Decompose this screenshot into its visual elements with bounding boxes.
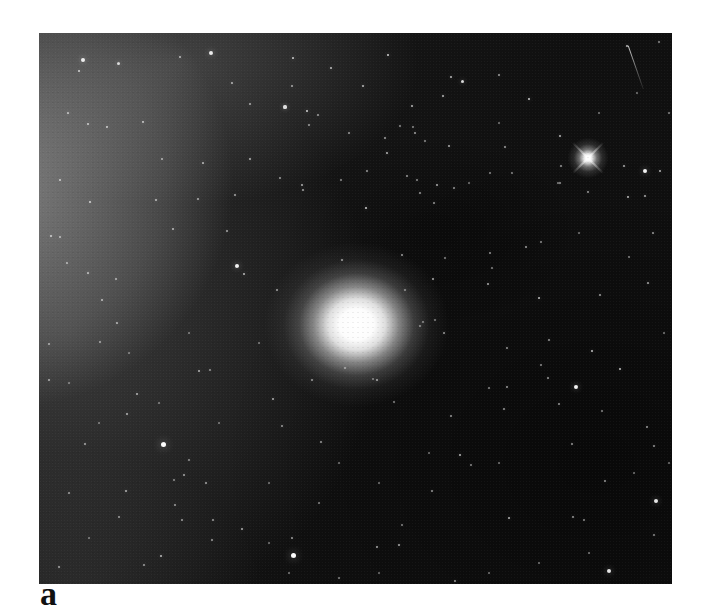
star [399,125,401,127]
star [183,474,185,476]
star [470,464,472,466]
star [668,462,670,464]
star [450,415,452,417]
star [607,569,611,573]
star [348,132,350,134]
star [366,170,368,172]
star [393,401,395,403]
star [81,58,85,62]
star [411,105,413,107]
star [161,442,166,447]
star [378,572,379,573]
star [126,413,128,415]
star [503,408,505,410]
star [59,236,61,238]
star [431,490,433,492]
star [547,377,549,379]
star [118,516,120,518]
star [384,137,386,139]
star [528,98,531,101]
comet-glow [264,242,449,407]
star [50,235,52,237]
star [66,262,68,264]
star [302,189,304,191]
star [106,126,109,129]
star [498,462,500,464]
star [644,195,646,197]
star [572,516,574,518]
star [538,297,541,300]
star [643,169,647,173]
star [291,85,293,87]
star [538,562,540,564]
star [243,273,246,276]
star [658,41,660,43]
star [317,114,319,116]
star [454,580,456,582]
star [398,544,400,546]
star [48,379,50,381]
star [488,387,490,389]
star [627,196,630,199]
star [226,230,228,232]
star [209,369,211,371]
star [604,480,606,482]
star [654,499,658,503]
star [559,135,561,137]
star [588,552,590,554]
star [386,152,388,154]
star [235,264,239,268]
star [412,126,414,128]
star [209,51,213,55]
star [155,199,157,201]
star [459,454,461,456]
star [143,564,145,566]
star [453,187,455,189]
star [511,172,513,174]
star [653,445,655,447]
star [198,370,200,372]
star [578,232,580,234]
star [291,553,296,558]
star [583,519,585,521]
star [571,443,573,445]
star [172,228,174,230]
star [498,74,500,76]
star [84,443,86,445]
star [436,184,438,186]
star [489,252,491,254]
star [659,170,662,173]
star [362,85,364,87]
star [488,572,490,574]
star [387,54,390,57]
star [142,121,145,124]
star [98,422,100,424]
star [87,123,89,125]
star [338,577,340,579]
star [599,294,601,296]
star [202,162,205,165]
figure-page: a [0,0,704,616]
star [67,112,69,114]
star [211,539,213,541]
star [498,122,500,124]
star [115,278,117,280]
star [231,82,233,84]
star [268,482,270,484]
star [181,519,183,521]
star [365,207,368,210]
star [444,257,446,259]
star [489,172,491,174]
star [414,132,416,134]
star [68,492,70,494]
star [653,534,655,536]
star [646,426,648,428]
panel-label: a [40,577,57,611]
star [188,332,190,334]
star [318,502,320,504]
star [158,402,160,404]
star [450,76,452,78]
star [89,201,92,204]
star [628,256,630,258]
star [234,194,236,196]
